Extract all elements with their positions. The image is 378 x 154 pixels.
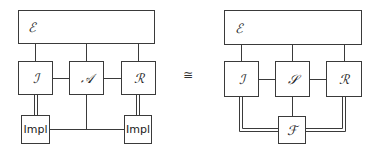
right-impl-box: Impl xyxy=(124,115,152,144)
right-node-i-label: ℐ xyxy=(239,73,245,86)
isomorphism-symbol: ≅ xyxy=(183,68,193,82)
left-environment-label: ℰ xyxy=(28,21,36,34)
right-impl-label: Impl xyxy=(126,123,150,136)
right-node-i: ℐ xyxy=(224,61,259,97)
functionality-label: ℱ xyxy=(287,124,297,137)
left-node-r: ℛ xyxy=(121,61,156,95)
left-node-a-label: 𝒜 xyxy=(81,72,93,85)
right-node-r-label: ℛ xyxy=(339,73,349,86)
left-node-i: ℐ xyxy=(18,61,53,95)
right-node-s-label: 𝒮 xyxy=(288,73,298,86)
left-impl-box: Impl xyxy=(21,115,50,144)
right-environment-label: ℰ xyxy=(235,22,243,35)
right-environment-box: ℰ xyxy=(224,10,362,45)
functionality-box: ℱ xyxy=(278,116,306,144)
left-node-a: 𝒜 xyxy=(69,61,104,95)
left-environment-box: ℰ xyxy=(18,10,155,44)
left-node-r-label: ℛ xyxy=(134,72,144,85)
right-node-s: 𝒮 xyxy=(275,61,310,97)
left-node-i-label: ℐ xyxy=(33,72,39,85)
left-impl-label: Impl xyxy=(24,123,48,136)
right-node-r: ℛ xyxy=(326,61,362,97)
